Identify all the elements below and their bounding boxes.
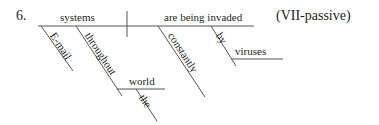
prep-object-world: world bbox=[129, 75, 155, 87]
agent-object-viruses: viruses bbox=[235, 45, 266, 57]
verb-word: are being invaded bbox=[164, 11, 242, 23]
subject-word: systems bbox=[60, 11, 95, 23]
